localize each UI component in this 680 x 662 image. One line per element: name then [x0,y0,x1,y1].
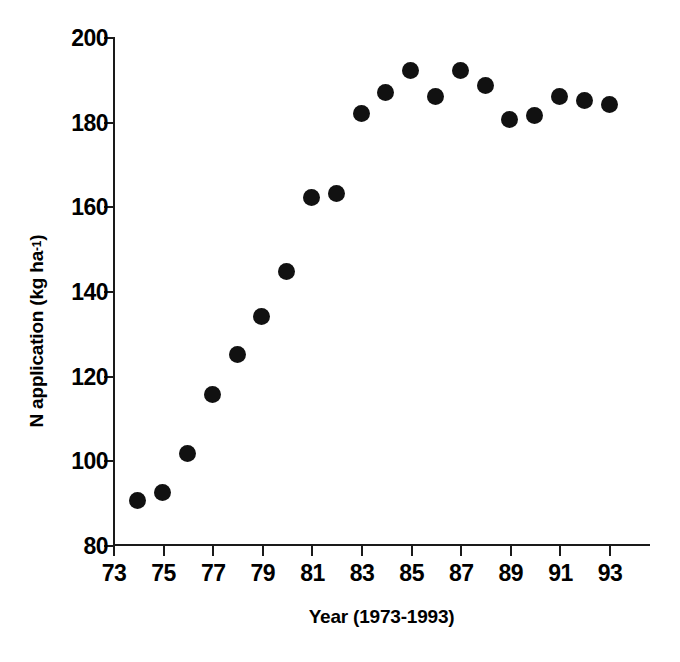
x-tick-label-81: 81 [300,560,325,587]
data-point [576,92,593,109]
x-tick-label-91: 91 [548,560,573,587]
data-point [278,263,295,280]
y-axis-title-base: N application (kg ha [26,251,48,428]
y-axis-line [113,37,115,546]
x-tick-mark-77 [212,546,214,556]
x-tick-mark-87 [460,546,462,556]
x-tick-mark-81 [311,546,313,556]
data-point [601,96,618,113]
x-tick-label-77: 77 [201,560,226,587]
data-point [179,445,196,462]
x-tick-mark-73 [113,546,115,556]
data-point [353,105,370,122]
y-axis-title-superscript: -1 [30,241,44,251]
scatter-chart-figure: N application (kg ha-1) 8010012014016018… [0,0,680,662]
data-point [501,111,518,128]
data-point [526,107,543,124]
data-point [229,346,246,363]
y-tick-label: 160 [71,194,108,221]
data-point [154,484,171,501]
x-tick-label-85: 85 [399,560,424,587]
x-tick-mark-89 [510,546,512,556]
y-axis-title: N application (kg ha-1) [14,0,60,662]
y-tick-label: 140 [71,279,108,306]
y-tick-label: 200 [71,25,108,52]
x-tick-label-75: 75 [151,560,176,587]
data-point [551,88,568,105]
x-tick-mark-85 [411,546,413,556]
data-point [303,189,320,206]
x-axis-line [113,544,650,546]
x-tick-mark-75 [163,546,165,556]
data-point [477,77,494,94]
x-tick-label-73: 73 [102,560,127,587]
data-point [204,386,221,403]
x-tick-label-93: 93 [598,560,623,587]
x-tick-mark-79 [262,546,264,556]
x-tick-label-79: 79 [251,560,276,587]
x-tick-label-89: 89 [499,560,524,587]
x-tick-label-83: 83 [350,560,375,587]
data-point [452,62,469,79]
x-axis-title: Year (1973-1993) [113,606,650,628]
data-point [402,62,419,79]
y-axis-title-close: ) [26,235,48,241]
y-tick-label: 120 [71,363,108,390]
x-tick-mark-83 [361,546,363,556]
x-tick-mark-93 [609,546,611,556]
data-point [328,185,345,202]
data-point [253,308,270,325]
data-point [129,492,146,509]
x-tick-mark-91 [559,546,561,556]
y-tick-label: 80 [83,533,108,560]
data-point [377,84,394,101]
y-tick-label: 100 [71,448,108,475]
x-tick-label-87: 87 [449,560,474,587]
plot-area: 80100120140160180200 7375777981838587899… [113,37,650,545]
y-tick-label: 180 [71,109,108,136]
data-point [427,88,444,105]
